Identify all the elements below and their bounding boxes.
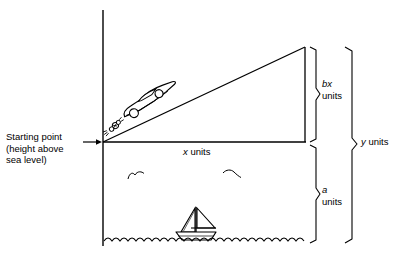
base-length-label: x units <box>183 146 210 158</box>
starting-point-line1: Starting point <box>6 131 62 142</box>
sailboat-icon <box>176 207 216 240</box>
car-illustration-icon <box>96 80 184 137</box>
rise-length-label: bx units <box>322 78 342 101</box>
below-sea-label: a units <box>322 184 342 207</box>
total-height-label: y units <box>361 136 388 148</box>
bird-icon-right <box>223 170 241 177</box>
slope-diagram <box>0 0 404 260</box>
starting-point-label: Starting point (height above sea level) <box>6 131 64 166</box>
below-sea-units: units <box>322 196 342 207</box>
total-units: units <box>366 136 389 147</box>
below-sea-symbol: a <box>322 184 327 195</box>
bird-icon-left <box>128 172 144 179</box>
base-units: units <box>188 146 211 157</box>
starting-point-arrow-icon <box>83 139 102 144</box>
rise-units: units <box>322 90 342 101</box>
incline-hypotenuse <box>103 47 305 142</box>
bracket-y <box>345 47 357 243</box>
bracket-a <box>310 145 320 243</box>
bracket-bx <box>310 47 320 142</box>
rise-symbol: bx <box>322 78 332 89</box>
starting-point-line2: (height above <box>6 143 64 154</box>
starting-point-line3: sea level) <box>6 154 47 165</box>
